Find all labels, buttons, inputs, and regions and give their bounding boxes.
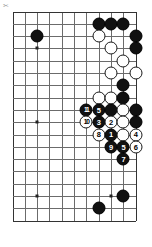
star-point	[36, 195, 39, 198]
white-stone[interactable]	[117, 54, 130, 67]
white-stone[interactable]: 8	[92, 128, 105, 141]
star-point	[109, 195, 112, 198]
black-stone[interactable]	[129, 116, 142, 129]
black-stone[interactable]	[31, 30, 44, 43]
grid-line-horizontal	[13, 12, 136, 13]
white-stone[interactable]	[92, 30, 105, 43]
white-stone[interactable]	[117, 116, 130, 129]
move-number: 7	[118, 154, 129, 165]
move-number: 2	[105, 117, 116, 128]
black-stone[interactable]: 5	[117, 140, 130, 153]
move-number: 5	[118, 141, 129, 152]
star-point	[36, 47, 39, 50]
star-point	[36, 121, 39, 124]
grid-line-vertical	[13, 12, 14, 221]
white-stone[interactable]: 2	[104, 116, 117, 129]
black-stone[interactable]	[117, 190, 130, 203]
move-number: 10	[81, 117, 92, 128]
white-stone[interactable]	[104, 91, 117, 104]
move-number: 8	[93, 129, 104, 140]
white-stone[interactable]: 10	[80, 116, 93, 129]
white-stone[interactable]	[92, 91, 105, 104]
black-stone[interactable]	[129, 42, 142, 55]
move-number: 5	[93, 104, 104, 115]
move-number: 1	[105, 129, 116, 140]
white-stone[interactable]	[129, 67, 142, 80]
screenshot-root: ✂ 11510328149567	[0, 0, 152, 247]
black-stone[interactable]	[129, 103, 142, 116]
move-number: 3	[93, 117, 104, 128]
grid-line-vertical	[25, 12, 26, 221]
black-stone[interactable]: 7	[117, 153, 130, 166]
go-board[interactable]: 11510328149567	[0, 0, 152, 247]
white-stone[interactable]	[104, 42, 117, 55]
black-stone[interactable]: 1	[104, 128, 117, 141]
black-stone[interactable]	[117, 79, 130, 92]
black-stone[interactable]: 3	[92, 116, 105, 129]
black-stone[interactable]	[92, 202, 105, 215]
white-stone[interactable]: 6	[129, 140, 142, 153]
black-stone[interactable]	[117, 17, 130, 30]
black-stone[interactable]: 11	[80, 103, 93, 116]
grid-line-horizontal	[13, 184, 136, 185]
grid-line-vertical	[74, 12, 75, 221]
black-stone[interactable]	[117, 91, 130, 104]
grid-line-horizontal	[13, 171, 136, 172]
move-number: 11	[81, 104, 92, 115]
grid-line-horizontal	[13, 221, 136, 222]
white-stone[interactable]: 4	[129, 128, 142, 141]
grid-line-vertical	[37, 12, 38, 221]
white-stone[interactable]	[104, 67, 117, 80]
move-number: 4	[130, 129, 141, 140]
white-stone[interactable]	[117, 128, 130, 141]
black-stone[interactable]	[92, 17, 105, 30]
black-stone[interactable]	[104, 17, 117, 30]
move-number: 9	[105, 141, 116, 152]
black-stone[interactable]: 9	[104, 140, 117, 153]
move-number: 6	[130, 141, 141, 152]
black-stone[interactable]	[129, 30, 142, 43]
grid-line-vertical	[62, 12, 63, 221]
grid-line-horizontal	[13, 208, 136, 209]
white-stone[interactable]	[117, 103, 130, 116]
black-stone[interactable]: 5	[92, 103, 105, 116]
grid-line-vertical	[49, 12, 50, 221]
black-stone[interactable]	[104, 103, 117, 116]
